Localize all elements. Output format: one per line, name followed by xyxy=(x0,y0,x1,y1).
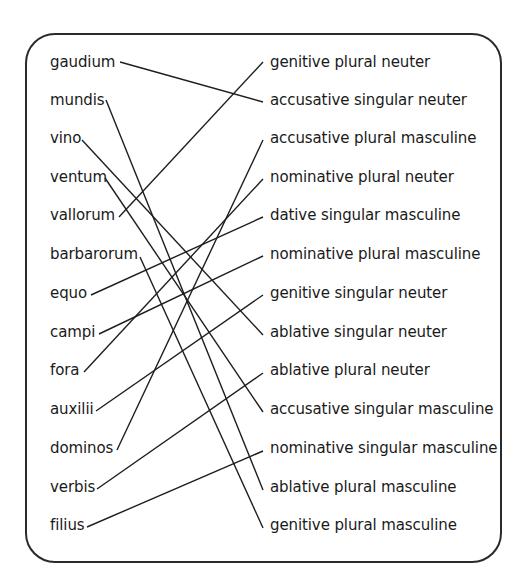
connection-line xyxy=(140,257,263,528)
latin-word-label: barbarorum xyxy=(50,245,138,263)
latin-word-label: filius xyxy=(50,516,85,534)
grammar-form-label: genitive plural neuter xyxy=(270,53,430,71)
grammar-form-label: accusative singular masculine xyxy=(270,400,493,418)
connection-line xyxy=(119,62,263,217)
latin-word-label: equo xyxy=(50,284,87,302)
connection-line xyxy=(82,140,263,335)
grammar-form-label: genitive singular neuter xyxy=(270,284,447,302)
latin-word-label: gaudium xyxy=(50,53,115,71)
grammar-form-label: nominative singular masculine xyxy=(270,439,497,457)
grammar-form-label: accusative singular neuter xyxy=(270,91,467,109)
grammar-form-label: dative singular masculine xyxy=(270,206,460,224)
latin-word-label: vino xyxy=(50,129,81,147)
matching-diagram: gaudiummundisvinoventumvallorumbarbaroru… xyxy=(0,0,527,586)
latin-word-label: campi xyxy=(50,323,95,341)
latin-word-label: mundis xyxy=(50,91,105,109)
latin-word-label: dominos xyxy=(50,439,113,457)
latin-word-label: ventum xyxy=(50,168,107,186)
connection-line xyxy=(117,140,263,450)
grammar-form-label: ablative plural neuter xyxy=(270,361,430,379)
connection-line xyxy=(96,295,263,411)
latin-word-label: vallorum xyxy=(50,206,115,224)
connection-line xyxy=(105,178,263,412)
latin-word-label: fora xyxy=(50,361,79,379)
connection-line xyxy=(87,451,263,527)
connection-line xyxy=(120,62,263,102)
latin-word-label: auxilii xyxy=(50,400,94,418)
grammar-form-label: genitive plural masculine xyxy=(270,516,457,534)
grammar-form-label: ablative singular neuter xyxy=(270,323,447,341)
grammar-form-label: nominative plural masculine xyxy=(270,245,480,263)
grammar-form-label: accusative plural masculine xyxy=(270,129,476,147)
grammar-form-label: nominative plural neuter xyxy=(270,168,454,186)
latin-word-label: verbis xyxy=(50,478,95,496)
grammar-form-label: ablative plural masculine xyxy=(270,478,456,496)
